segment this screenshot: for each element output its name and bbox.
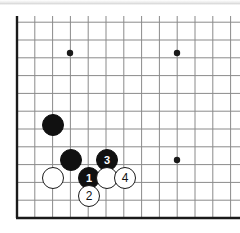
go-board-grid: [0, 0, 240, 233]
white-move-4: 4: [114, 167, 136, 189]
star-point-lower-right: [174, 157, 180, 163]
stone-number-label: 4: [122, 172, 128, 184]
scan-artifact-bottom: [0, 227, 240, 233]
star-point-upper-left: [67, 50, 73, 56]
white-move-2: 2: [78, 185, 100, 207]
stone-number-label: 2: [86, 190, 92, 202]
go-board-diagram: 1234: [0, 0, 240, 233]
go-board: [0, 0, 240, 233]
star-point-upper-right: [174, 50, 180, 56]
black-stone-a: [42, 114, 64, 136]
stone-number-label: 3: [104, 155, 110, 166]
white-stone-a: [42, 167, 64, 189]
black-stone-b: [60, 149, 82, 171]
stone-number-label: 1: [86, 173, 92, 184]
